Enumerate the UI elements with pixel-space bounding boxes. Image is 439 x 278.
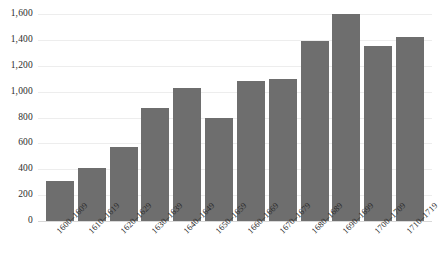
bar xyxy=(364,46,392,221)
x-axis-tick-labels: 1600–16091610–16191620–16291630–16391640… xyxy=(38,221,432,278)
bar-slot xyxy=(108,14,140,221)
bar-slot xyxy=(330,14,362,221)
y-axis-tick-label: 800 xyxy=(18,113,33,123)
bar-slot xyxy=(76,14,108,221)
bar-slot xyxy=(139,14,171,221)
bar xyxy=(396,37,424,221)
y-axis-tick-label: 1,200 xyxy=(11,61,33,71)
bar-slot xyxy=(299,14,331,221)
y-axis-tick-label: 1,600 xyxy=(11,9,33,19)
y-axis-tick-label: 1,000 xyxy=(11,87,33,97)
y-axis-tick-label: 200 xyxy=(18,190,33,200)
y-axis-tick-labels: 02004006008001,0001,2001,4001,600 xyxy=(0,0,33,278)
bar xyxy=(301,41,329,221)
bar-slot xyxy=(44,14,76,221)
y-axis-tick-label: 1,400 xyxy=(11,35,33,45)
x-tick-slot: 1630–1639 xyxy=(139,221,171,278)
y-axis-tick-label: 600 xyxy=(18,139,33,149)
x-tick-slot: 1680–1689 xyxy=(299,221,331,278)
bar xyxy=(332,14,360,221)
x-tick-slot: 1620–1629 xyxy=(108,221,140,278)
x-tick-slot: 1650–1659 xyxy=(203,221,235,278)
bar-slot xyxy=(394,14,426,221)
y-axis-tick-label: 0 xyxy=(28,216,33,226)
x-tick-slot: 1670–1679 xyxy=(267,221,299,278)
x-tick-slot: 1690–1699 xyxy=(330,221,362,278)
x-tick-slot: 1600–1609 xyxy=(44,221,76,278)
bar-chart: 02004006008001,0001,2001,4001,600 1600–1… xyxy=(0,0,439,278)
x-tick-slot: 1660–1669 xyxy=(235,221,267,278)
bar-slot xyxy=(362,14,394,221)
bar-slot xyxy=(171,14,203,221)
x-tick-slot: 1640–1649 xyxy=(171,221,203,278)
x-tick-slot: 1610–1619 xyxy=(76,221,108,278)
plot-area xyxy=(38,14,432,221)
bar-series xyxy=(38,14,432,221)
x-tick-slot: 1700–1709 xyxy=(362,221,394,278)
y-axis-tick-label: 400 xyxy=(18,165,33,175)
bar-slot xyxy=(267,14,299,221)
bar-slot xyxy=(203,14,235,221)
bar-slot xyxy=(235,14,267,221)
x-tick-slot: 1710–1719 xyxy=(394,221,426,278)
